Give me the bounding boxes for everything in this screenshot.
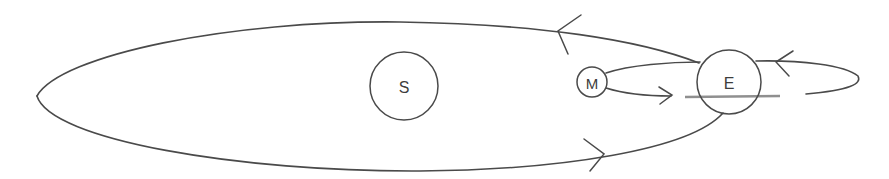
moon-label: M — [586, 75, 599, 92]
moon-orbit-upper-path — [606, 62, 700, 73]
earth-orbit-bottom-arrow-icon — [584, 139, 604, 171]
moon-body: M — [577, 67, 607, 97]
moon-orbit-right-arrow-icon — [776, 51, 793, 76]
earth-label: E — [724, 75, 735, 92]
moon-orbit-upper-right-path — [756, 61, 859, 94]
earth-body: E — [697, 50, 761, 114]
sun-body: S — [370, 52, 438, 120]
sun-label: S — [399, 79, 410, 96]
moon-orbit-blurred-segment — [685, 96, 780, 97]
orbit-diagram: S E M — [0, 0, 889, 179]
